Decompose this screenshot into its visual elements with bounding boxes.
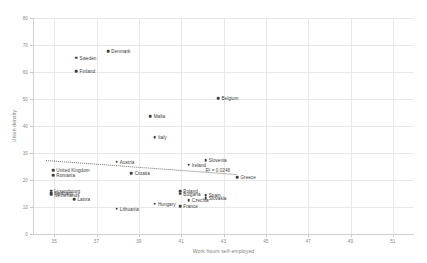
y-axis-line: [33, 18, 34, 234]
x-tick-label: 39: [136, 239, 141, 244]
y-tick-label: 80: [13, 16, 28, 21]
data-point: [115, 207, 118, 210]
data-point: [149, 115, 152, 118]
data-point-label: France: [183, 203, 198, 208]
y-gridline: [33, 153, 414, 154]
y-gridline: [33, 207, 414, 208]
y-tick-label: 10: [13, 205, 28, 210]
data-point-label: Italy: [158, 135, 167, 140]
y-tick-label: 50: [13, 97, 28, 102]
x-axis-title: Work hours self-employed: [193, 248, 255, 254]
data-point: [187, 164, 190, 167]
y-tick-label: 0: [13, 232, 28, 237]
data-point: [153, 136, 156, 139]
data-point: [50, 193, 53, 196]
y-gridline: [33, 45, 414, 46]
data-point-label: Czechia: [192, 197, 209, 202]
y-tick-label: 30: [13, 151, 28, 156]
data-point-label: Lithuania: [120, 206, 139, 211]
x-tick-label: 35: [52, 239, 57, 244]
data-point: [75, 70, 78, 73]
y-gridline: [33, 180, 414, 181]
data-point: [187, 199, 190, 202]
data-point-label: Ireland: [192, 162, 206, 167]
r2-annotation: R² = 0.0248: [206, 168, 231, 173]
x-tick-label: 47: [306, 239, 311, 244]
data-point-label: Netherlands: [54, 192, 79, 197]
data-point: [217, 97, 220, 100]
data-point-label: Sweden: [80, 55, 97, 60]
data-point-label: Finland: [80, 69, 95, 74]
scatter-chart: DenmarkSwedenFinlandBelgiumMaltaItalyAus…: [0, 0, 427, 263]
data-point: [52, 169, 55, 172]
x-tick-label: 51: [390, 239, 395, 244]
y-tick-label: 40: [13, 124, 28, 129]
y-tick-label: 60: [13, 70, 28, 75]
data-point-label: Croatia: [135, 170, 150, 175]
data-point-label: Slovenia: [209, 158, 227, 163]
data-point: [73, 198, 76, 201]
data-point: [236, 176, 239, 179]
y-gridline: [33, 126, 414, 127]
data-point-label: Latvia: [77, 197, 90, 202]
data-point: [75, 56, 78, 59]
data-point-label: Greece: [240, 175, 255, 180]
x-tick-label: 41: [179, 239, 184, 244]
data-point-label: Bulgaria: [183, 191, 200, 196]
data-point: [130, 172, 133, 175]
data-point: [179, 205, 182, 208]
data-point-label: Malta: [154, 114, 165, 119]
data-point-label: Denmark: [111, 48, 130, 53]
data-point-label: Hungary: [158, 201, 176, 206]
data-point-label: Austria: [120, 159, 135, 164]
data-point: [153, 202, 156, 205]
data-point: [179, 192, 182, 195]
data-point: [107, 50, 110, 53]
y-tick-label: 20: [13, 178, 28, 183]
y-gridline: [33, 18, 414, 19]
data-point: [204, 194, 207, 197]
data-point: [115, 160, 118, 163]
data-point: [52, 174, 55, 177]
data-point-label: Belgium: [221, 96, 238, 101]
x-tick-label: 49: [348, 239, 353, 244]
plot-area: DenmarkSwedenFinlandBelgiumMaltaItalyAus…: [33, 18, 414, 234]
data-point: [204, 159, 207, 162]
y-tick-label: 70: [13, 43, 28, 48]
data-point-label: Slovakia: [209, 196, 227, 201]
x-tick-label: 37: [94, 239, 99, 244]
data-point-label: Romania: [56, 173, 75, 178]
x-tick-label: 45: [263, 239, 268, 244]
x-tick-label: 43: [221, 239, 226, 244]
x-axis-line: [33, 234, 414, 235]
